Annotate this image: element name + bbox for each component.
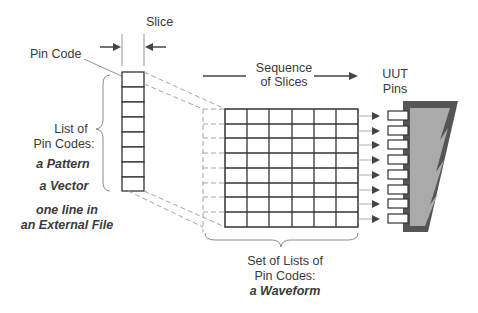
waveform-label: Set of Lists of Pin Codes: a Waveform (247, 254, 323, 298)
pin-code-diagram: Slice Pin Code List of Pin Codes: a Patt… (0, 0, 478, 313)
slice-label: Slice (146, 15, 173, 29)
waveform-grid (225, 109, 358, 227)
waveform-emphasis-label: a Waveform (250, 284, 321, 298)
sequence-label-1: Sequence (256, 61, 312, 75)
vector-label: a Vector (40, 179, 90, 193)
pin-code-label: Pin Code (30, 47, 81, 61)
svg-text:Pin Codes:: Pin Codes: (254, 269, 315, 283)
external-file-label-2: an External File (21, 218, 113, 232)
svg-text:Set of Lists of: Set of Lists of (247, 254, 323, 268)
uut-device (403, 101, 458, 232)
sequence-arrow-icon (314, 72, 358, 80)
list-of-pin-codes-label: List of Pin Codes: a Pattern a Vector on… (21, 122, 113, 232)
slice-left-arrow-icon (100, 43, 121, 51)
slice-right-arrow-icon (145, 43, 166, 51)
uut-label-2: Pins (383, 82, 407, 96)
slice-column (122, 72, 144, 191)
pattern-label: a Pattern (36, 157, 90, 171)
waveform-brace (205, 233, 358, 247)
sequence-label-2: of Slices (260, 75, 307, 89)
uut-label-1: UUT (382, 67, 408, 81)
svg-text:List of: List of (54, 122, 88, 136)
svg-text:Pin Codes:: Pin Codes: (33, 137, 94, 151)
list-brace (96, 75, 110, 191)
external-file-label-1: one line in (36, 203, 98, 217)
pin-connectors (358, 112, 380, 223)
